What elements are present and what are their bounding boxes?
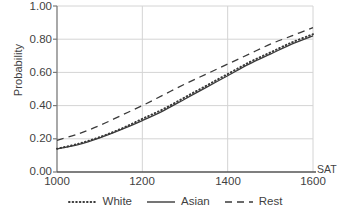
- legend-label: White: [103, 196, 132, 208]
- axis-lines: [53, 6, 316, 172]
- series-line-asian: [57, 36, 313, 149]
- legend-label: Rest: [259, 196, 283, 208]
- legend-item-white[interactable]: White: [68, 196, 132, 208]
- chart-container: Probability 1.00 0.80 0.60 0.40 0.20 0.0…: [0, 0, 350, 215]
- legend-swatch-dotted-icon: [68, 197, 98, 207]
- legend-item-asian[interactable]: Asian: [146, 196, 210, 208]
- series-lines: [57, 28, 313, 149]
- plot-area: [0, 0, 350, 215]
- chart-legend: White Asian Rest: [0, 196, 350, 208]
- series-line-rest: [57, 28, 313, 141]
- legend-label: Asian: [181, 196, 210, 208]
- legend-swatch-dashed-icon: [224, 197, 254, 207]
- legend-swatch-solid-icon: [146, 197, 176, 207]
- gridlines: [57, 6, 313, 172]
- legend-item-rest[interactable]: Rest: [224, 196, 283, 208]
